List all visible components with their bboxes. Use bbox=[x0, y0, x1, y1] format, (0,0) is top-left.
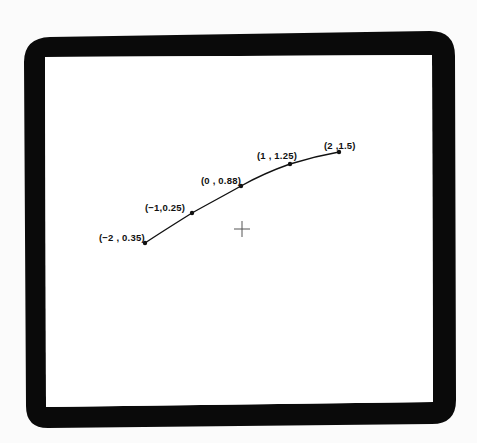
point-label-0: (−2 , 0.35) bbox=[99, 232, 145, 243]
point-label-4: (2 ,1.5) bbox=[324, 140, 356, 151]
data-point-3 bbox=[288, 162, 292, 166]
point-label-1: (−1,0.25) bbox=[145, 202, 185, 213]
plot-display: (−2 , 0.35) (−1,0.25) (0 , 0.88) (1 , 1.… bbox=[0, 0, 477, 443]
point-label-2: (0 , 0.88) bbox=[201, 175, 241, 186]
screen-area bbox=[45, 55, 433, 407]
point-label-3: (1 , 1.25) bbox=[257, 150, 297, 161]
data-point-1 bbox=[190, 211, 194, 215]
